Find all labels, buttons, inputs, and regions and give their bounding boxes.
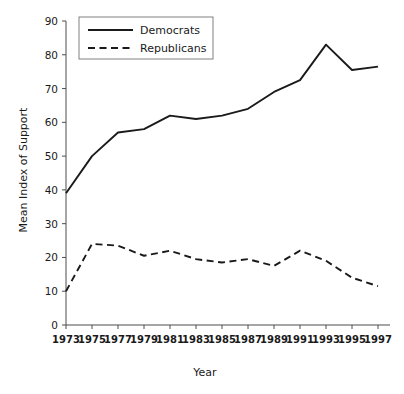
x-tick-label: 1979 (130, 334, 158, 345)
x-tick-label: 1991 (286, 334, 314, 345)
y-tick-label: 70 (45, 83, 58, 95)
y-tick-label: 80 (45, 49, 58, 61)
x-tick-label: 1975 (78, 334, 106, 345)
chart-legend: Democrats Republicans (79, 17, 213, 59)
x-axis-ticks (66, 325, 378, 329)
series-line-republicans (66, 244, 378, 291)
y-tick-label: 20 (45, 251, 58, 263)
y-tick-label: 90 (45, 15, 58, 27)
x-axis-title: Year (192, 366, 217, 379)
chart-figure: 0102030405060708090 19731975197719791981… (0, 0, 404, 394)
series-line-democrats (66, 45, 378, 194)
x-tick-label: 1995 (338, 334, 366, 345)
y-tick-label: 60 (45, 116, 58, 128)
y-axis-tick-labels: 0102030405060708090 (45, 15, 58, 331)
y-axis-title: Mean Index of Support (17, 107, 30, 233)
x-tick-label: 1993 (312, 334, 340, 345)
x-tick-label: 1997 (364, 334, 392, 345)
y-tick-label: 30 (45, 218, 58, 230)
line-chart-canvas: 0102030405060708090 19731975197719791981… (0, 0, 404, 394)
x-tick-label: 1985 (208, 334, 236, 345)
legend-label-republicans: Republicans (140, 42, 207, 55)
x-tick-label: 1983 (182, 334, 210, 345)
y-tick-label: 40 (45, 184, 58, 196)
x-tick-label: 1981 (156, 334, 184, 345)
x-tick-label: 1989 (260, 334, 288, 345)
legend-label-democrats: Democrats (140, 24, 200, 37)
x-tick-label: 1987 (234, 334, 262, 345)
x-tick-label: 1973 (52, 334, 80, 345)
data-series-group (66, 45, 378, 292)
y-tick-label: 10 (45, 285, 58, 297)
y-tick-label: 0 (51, 319, 58, 331)
y-axis-ticks (62, 21, 66, 325)
x-tick-label: 1977 (104, 334, 132, 345)
x-axis-tick-labels: 1973197519771979198119831985198719891991… (52, 334, 392, 345)
y-tick-label: 50 (45, 150, 58, 162)
